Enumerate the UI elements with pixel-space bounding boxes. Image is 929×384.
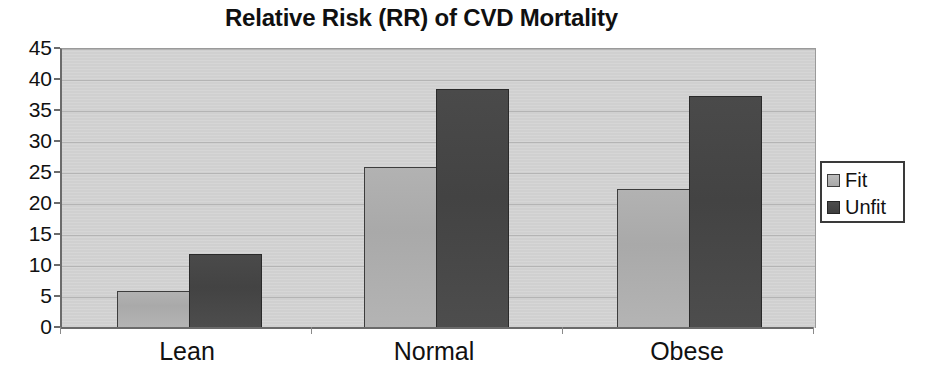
gridline	[62, 80, 815, 81]
bar-normal-fit	[364, 167, 437, 328]
bar-lean-fit	[117, 291, 190, 328]
legend-swatch-fit	[827, 174, 840, 187]
x-tick-label-obese: Obese	[607, 337, 767, 366]
legend-swatch-unfit	[827, 201, 840, 214]
y-tick-label: 45	[6, 37, 52, 58]
bar-lean-unfit	[189, 254, 262, 328]
y-tick-mark	[54, 78, 60, 80]
bar-chart: Relative Risk (RR) of CVD Mortality 4540…	[0, 0, 929, 384]
legend: FitUnfit	[820, 161, 905, 223]
legend-item-unfit[interactable]: Unfit	[827, 195, 886, 219]
y-tick-mark	[54, 171, 60, 173]
bar-obese-unfit	[689, 96, 762, 329]
legend-label: Fit	[845, 170, 867, 190]
y-tick-mark	[54, 140, 60, 142]
x-tick-label-normal: Normal	[354, 337, 514, 366]
x-tick-mark	[562, 327, 563, 334]
x-tick-mark	[311, 327, 312, 334]
y-tick-mark	[54, 202, 60, 204]
x-axis-baseline	[60, 327, 814, 329]
y-axis: 454035302520151050	[0, 0, 52, 384]
gridline	[62, 49, 815, 50]
y-tick-mark	[54, 264, 60, 266]
y-tick-label: 30	[6, 130, 52, 151]
y-tick-label: 25	[6, 161, 52, 182]
y-tick-mark	[54, 233, 60, 235]
bar-normal-unfit	[436, 89, 509, 328]
y-tick-label: 20	[6, 192, 52, 213]
y-tick-mark	[54, 326, 60, 328]
legend-item-fit[interactable]: Fit	[827, 168, 867, 192]
bar-obese-fit	[617, 189, 690, 329]
y-tick-label: 10	[6, 254, 52, 275]
y-tick-mark	[54, 109, 60, 111]
y-tick-label: 35	[6, 99, 52, 120]
x-tick-mark	[60, 327, 61, 334]
y-tick-mark	[54, 47, 60, 49]
legend-label: Unfit	[845, 197, 886, 217]
y-tick-label: 0	[6, 316, 52, 337]
y-tick-label: 40	[6, 68, 52, 89]
y-tick-mark	[54, 295, 60, 297]
plot-area	[60, 48, 816, 328]
x-tick-label-lean: Lean	[107, 337, 267, 366]
y-tick-label: 5	[6, 285, 52, 306]
y-tick-label: 15	[6, 223, 52, 244]
x-tick-mark	[813, 327, 814, 334]
chart-title: Relative Risk (RR) of CVD Mortality	[0, 4, 843, 32]
